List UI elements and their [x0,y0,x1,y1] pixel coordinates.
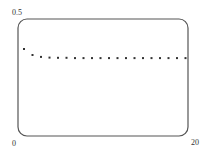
data-point [57,57,59,59]
data-point [159,57,161,59]
data-point [142,57,144,59]
data-point [117,57,119,59]
chart-plot-area [0,0,210,150]
data-point [40,56,42,58]
data-point [23,48,25,50]
data-point [91,57,93,59]
data-point [185,57,187,59]
data-point [176,57,178,59]
data-point [125,57,127,59]
data-point [151,57,153,59]
data-point [168,57,170,59]
data-point [108,57,110,59]
data-point [100,57,102,59]
data-point [66,57,68,59]
data-point [83,57,85,59]
origin-label: 0 [12,140,16,148]
data-point [74,57,76,59]
y-axis-max-label: 0.5 [12,9,22,17]
chart-frame [18,19,188,136]
data-point [49,57,51,59]
x-axis-max-label: 20 [191,139,199,147]
data-point [134,57,136,59]
data-point [32,54,34,56]
data-points [23,48,187,59]
